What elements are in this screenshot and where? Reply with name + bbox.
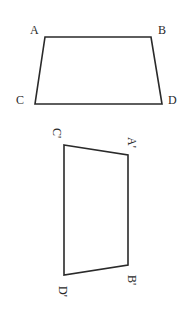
trapezoid-abcd-prime bbox=[64, 145, 128, 275]
vertex-label-c: C bbox=[16, 93, 24, 107]
vertex-label-c-prime: C' bbox=[50, 128, 64, 138]
vertex-label-a: A bbox=[30, 23, 39, 37]
trapezoid-abcd bbox=[35, 37, 162, 104]
vertex-label-a-prime: A' bbox=[125, 137, 139, 148]
diagram-canvas: A B C D C' A' B' D' bbox=[0, 0, 180, 313]
vertex-label-d: D bbox=[168, 93, 177, 107]
vertex-label-b-prime: B' bbox=[125, 275, 139, 285]
diagram-svg: A B C D C' A' B' D' bbox=[0, 0, 180, 313]
vertex-label-d-prime: D' bbox=[56, 286, 70, 297]
vertex-label-b: B bbox=[158, 23, 166, 37]
